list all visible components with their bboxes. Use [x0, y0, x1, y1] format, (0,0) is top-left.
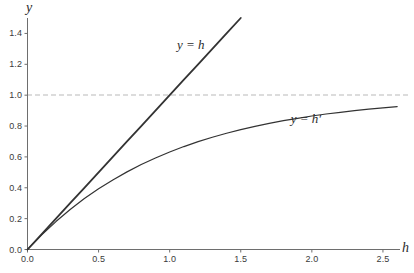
curve-annotation: y = h′: [291, 111, 321, 127]
x-tick-label: 1.0: [163, 254, 176, 264]
series-line-derivative: [28, 107, 398, 250]
y-tick-label: 1.4: [0, 28, 22, 38]
x-tick-label: 2.0: [305, 254, 318, 264]
y-tick-label: 0.8: [0, 121, 22, 131]
curve-annotation: y = h: [177, 37, 205, 53]
y-tick-label: 1.2: [0, 59, 22, 69]
x-tick-label: 2.5: [377, 254, 390, 264]
series-line-identity: [28, 18, 241, 250]
y-tick-label: 0.2: [0, 214, 22, 224]
x-tick-label: 0.5: [92, 254, 105, 264]
chart-figure: 0.00.20.40.60.81.01.21.4 0.00.51.01.52.0…: [0, 0, 414, 273]
y-tick-label: 0.0: [0, 245, 22, 255]
y-tick-label: 0.4: [0, 183, 22, 193]
plot-canvas: [0, 0, 414, 273]
y-tick-label: 1.0: [0, 90, 22, 100]
x-tick-label: 1.5: [234, 254, 247, 264]
x-tick-label: 0.0: [21, 254, 34, 264]
y-tick-label: 0.6: [0, 152, 22, 162]
y-axis-label: y: [26, 0, 32, 16]
x-axis-label: h: [402, 240, 409, 256]
